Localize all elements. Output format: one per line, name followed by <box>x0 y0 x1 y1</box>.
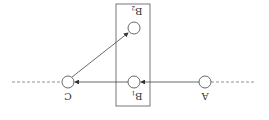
diagram: A B1 B2 C <box>0 0 269 120</box>
node-b1 <box>128 76 140 88</box>
label-c: C <box>64 91 72 102</box>
label-a: A <box>201 91 210 102</box>
edge-c-b2 <box>72 33 128 77</box>
label-b2: B2 <box>131 5 142 17</box>
node-c <box>62 76 74 88</box>
node-b2 <box>128 22 140 34</box>
diagram-canvas: A B1 B2 C <box>0 0 269 120</box>
label-b1: B1 <box>131 90 142 102</box>
node-a <box>199 76 211 88</box>
